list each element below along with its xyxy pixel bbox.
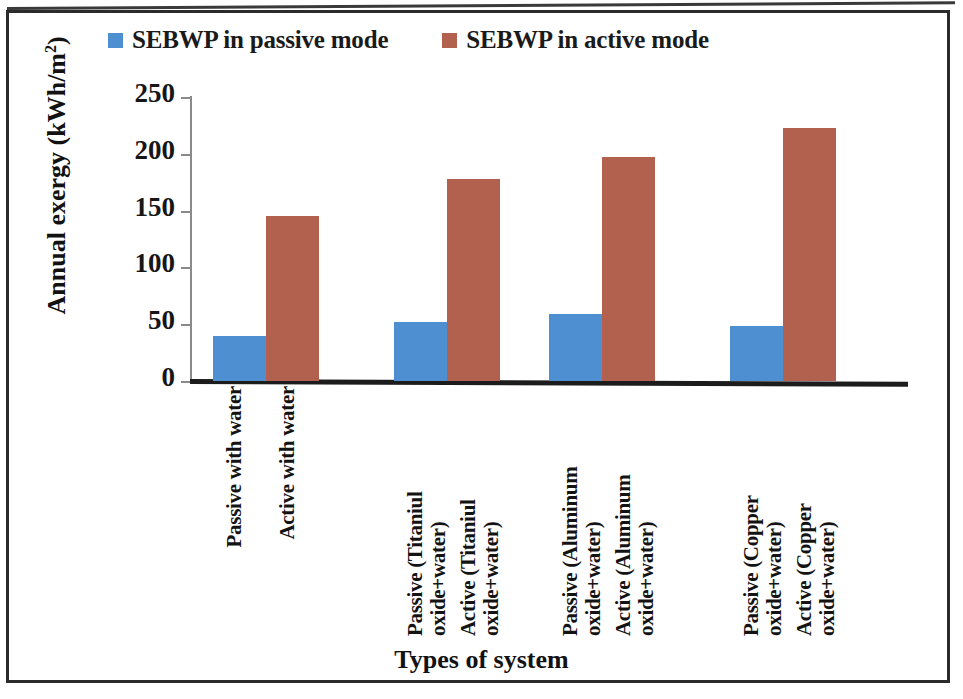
y-axis-tick-label: 200 bbox=[89, 137, 175, 164]
chart-legend: SEBWP in passive mode SEBWP in active mo… bbox=[108, 22, 898, 58]
x-axis-tick-labels: Passive with waterActive with waterPassi… bbox=[190, 386, 908, 636]
y-axis-tick-label: 50 bbox=[89, 307, 175, 334]
x-axis-tick-label: Active (Aluminum oxide+water) bbox=[612, 386, 657, 636]
bar-active[interactable] bbox=[602, 157, 655, 381]
bar-active[interactable] bbox=[783, 128, 836, 381]
y-axis-title-tail: ) bbox=[42, 36, 71, 45]
x-axis-tick-label: Passive (Copper oxide+water) bbox=[740, 386, 785, 636]
x-axis-tick-label: Active (Copper oxide+water) bbox=[793, 386, 838, 636]
y-axis-tick-label: 0 bbox=[89, 364, 175, 391]
bar-series-container bbox=[190, 97, 908, 381]
y-axis-title-base: Annual exergy (kWh/m bbox=[42, 53, 71, 314]
bar-passive[interactable] bbox=[213, 336, 266, 381]
bar-passive[interactable] bbox=[394, 322, 447, 381]
x-axis-tick-label: Passive (Aluminum oxide+water) bbox=[559, 386, 604, 636]
chart-figure: SEBWP in passive mode SEBWP in active mo… bbox=[0, 0, 963, 699]
y-axis-tick-labels: 250200150100500 bbox=[80, 0, 175, 699]
y-axis-tick-label: 250 bbox=[89, 80, 175, 107]
bar-active[interactable] bbox=[447, 179, 500, 381]
y-axis-title: Annual exergy (kWh/m2) bbox=[42, 10, 73, 340]
y-axis-tick-label: 100 bbox=[89, 250, 175, 277]
bar-passive[interactable] bbox=[730, 326, 783, 381]
y-axis-tick-label: 150 bbox=[89, 194, 175, 221]
x-axis-tick-label: Active (Titaniul oxide+water) bbox=[457, 386, 502, 636]
legend-swatch-active-icon bbox=[442, 33, 457, 48]
x-axis-title: Types of system bbox=[0, 645, 963, 675]
bar-active[interactable] bbox=[266, 216, 319, 381]
legend-label-active: SEBWP in active mode bbox=[466, 26, 709, 54]
x-axis-tick-label: Active with water bbox=[276, 386, 299, 540]
legend-item-active[interactable]: SEBWP in active mode bbox=[442, 26, 709, 54]
x-axis-tick-label: Passive (Titaniul oxide+water) bbox=[404, 386, 449, 636]
x-axis-tick-label: Passive with water bbox=[223, 386, 246, 547]
y-axis-title-exponent: 2 bbox=[42, 45, 59, 53]
bar-passive[interactable] bbox=[549, 314, 602, 381]
